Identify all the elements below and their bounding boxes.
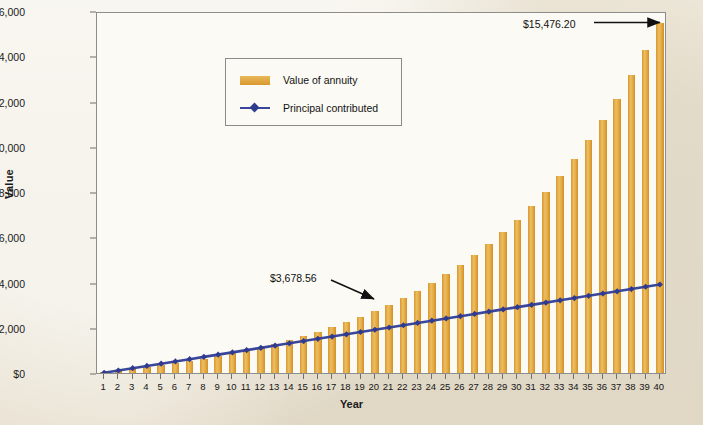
arrow-to-year20-bar <box>331 280 374 299</box>
annotation-arrow-group <box>0 0 703 425</box>
annuity-growth-chart: Value $0$2,000$4,000$6,000$8,000$10,000$… <box>0 0 703 425</box>
